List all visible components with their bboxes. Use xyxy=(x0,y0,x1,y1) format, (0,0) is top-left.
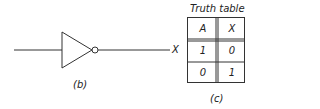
row2-a: 0 xyxy=(196,68,210,78)
row1-a: 1 xyxy=(196,46,210,56)
caption-b: (b) xyxy=(73,80,87,90)
truth-table-title: Truth table xyxy=(190,4,245,14)
caption-c: (c) xyxy=(210,94,223,104)
header-a: A xyxy=(196,24,210,34)
row2-x: 1 xyxy=(225,68,239,78)
row1-x: 0 xyxy=(225,46,239,56)
header-x: X xyxy=(225,24,239,34)
not-gate-triangle-icon xyxy=(62,32,92,68)
output-label: X xyxy=(172,45,179,55)
inversion-bubble-icon xyxy=(92,47,98,53)
